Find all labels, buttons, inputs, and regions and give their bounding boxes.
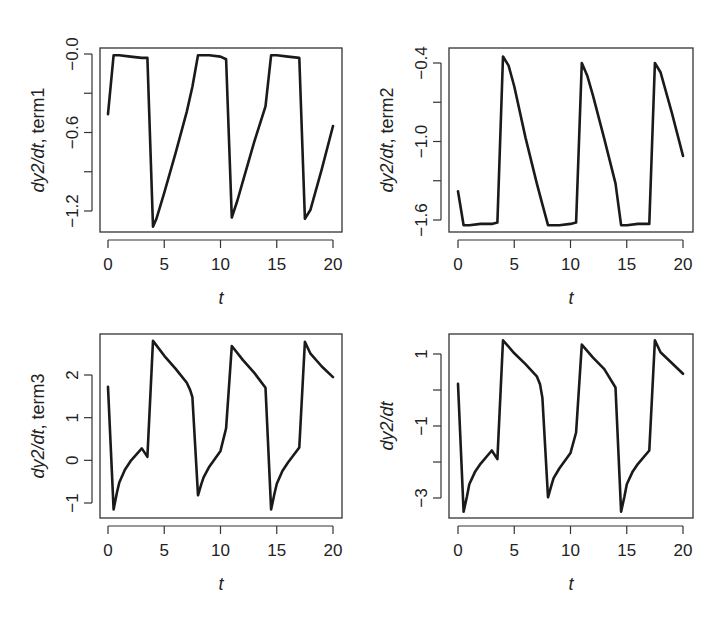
data-line [108,55,333,226]
x-tick-label: 5 [160,541,169,560]
y-tick-label: −0.6 [63,116,82,150]
y-axis-label: dy2/dt, term1 [28,87,48,192]
y-tick-label: −1 [63,493,82,512]
y-tick-label: −1 [412,416,431,435]
x-tick-label: 15 [617,541,636,560]
x-tick-label: 20 [324,541,343,560]
panel-term2: 05101520t−0.4−1.0−1.6dy2/dt, term2 [377,46,693,308]
x-tick-label: 15 [267,541,286,560]
y-tick-label: 1 [412,349,431,358]
panel-total: 05101520t−3−11dy2/dt [377,334,693,594]
y-axis-label: dy2/dt, term2 [377,87,397,192]
y-tick-label: −0.4 [412,46,431,80]
x-axis-label: t [568,574,574,594]
x-tick-label: 0 [103,255,112,274]
x-tick-label: 0 [453,255,462,274]
y-tick-label: 2 [63,370,82,379]
x-tick-label: 20 [674,255,693,274]
x-tick-label: 10 [561,541,580,560]
plot-frame [449,48,693,232]
panel-term3: 05101520t−1012dy2/dt, term3 [28,334,342,594]
y-axis-label: dy2/dt, term3 [28,373,48,478]
y-tick-label: 1 [63,413,82,422]
x-tick-label: 5 [510,541,519,560]
x-tick-label: 0 [103,541,112,560]
x-tick-label: 10 [211,255,230,274]
data-line [458,340,683,511]
x-tick-label: 10 [211,541,230,560]
x-tick-label: 10 [561,255,580,274]
y-tick-label: −3 [412,488,431,507]
x-axis-label: t [568,288,574,308]
y-tick-label: −1.6 [412,203,431,237]
x-tick-label: 5 [160,255,169,274]
figure-canvas: 05101520t−0.0−0.6−1.2dy2/dt, term1 05101… [0,0,726,620]
y-tick-label: 0 [63,456,82,465]
x-tick-label: 5 [510,255,519,274]
y-tick-label: −1.0 [412,125,431,159]
data-line [458,57,683,226]
data-line [108,341,333,510]
panel-term1: 05101520t−0.0−0.6−1.2dy2/dt, term1 [28,37,342,308]
y-tick-label: −0.0 [63,37,82,71]
x-axis-label: t [218,574,224,594]
y-axis-label: dy2/dt [377,400,397,450]
x-tick-label: 20 [324,255,343,274]
x-tick-label: 0 [453,541,462,560]
y-tick-label: −1.2 [63,194,82,228]
x-tick-label: 15 [617,255,636,274]
x-axis-label: t [218,288,224,308]
plot-frame [100,334,342,518]
plot-frame [100,48,342,232]
x-tick-label: 15 [267,255,286,274]
plot-frame [449,334,693,518]
x-tick-label: 20 [674,541,693,560]
